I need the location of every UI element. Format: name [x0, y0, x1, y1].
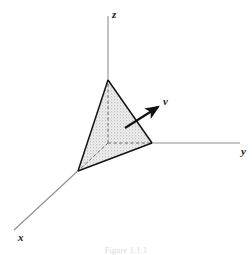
- normal-vector-label: ν: [163, 95, 168, 107]
- x-axis-label: x: [17, 231, 24, 243]
- z-axis-label: z: [111, 8, 117, 20]
- figure-caption: Figure 1.1.1: [0, 246, 252, 255]
- y-axis-label: y: [239, 145, 246, 157]
- tetrahedron: [78, 80, 152, 171]
